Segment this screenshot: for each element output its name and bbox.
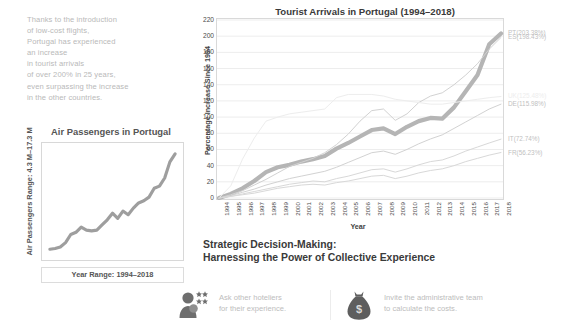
series-label-fr: FR(56.23%) [508,149,542,156]
x-tick-2013: 2013 [446,202,453,216]
series-line-uk [219,94,501,198]
x-tick-1999: 1999 [281,202,288,216]
series-label-es: ES(198.43%) [508,33,546,40]
x-tick-1995: 1995 [234,202,241,216]
callout-ask-hoteliers-line-2: for their experience. [219,303,286,314]
svg-text:$: $ [356,303,362,315]
strategic-heading-line-1: Strategic Decision-Making: [203,238,543,251]
y-tick-200: 200 [192,32,214,39]
x-tick-2005: 2005 [352,202,359,216]
x-tick-2007: 2007 [375,202,382,216]
y-tick-140: 140 [192,81,214,88]
y-axis-ticks: 020406080100120140160180200220 [188,18,214,200]
y-tick-40: 40 [192,162,214,169]
slide-root: Thanks to the introduction of low-cost f… [0,0,564,336]
y-tick-80: 80 [192,129,214,136]
narrative-line-7: even surpassing the increase [27,81,177,92]
callout-invite-admin-line-2: to calculate the costs. [384,303,483,314]
x-tick-2011: 2011 [422,202,429,215]
callout-invite-admin: $ Invite the administrative team to calc… [343,288,483,322]
series-label-it: IT(72.74%) [508,135,540,142]
x-tick-2009: 2009 [399,202,406,216]
x-tick-2010: 2010 [411,202,418,216]
callout-invite-admin-line-1: Invite the administrative team [384,292,483,303]
x-tick-2014: 2014 [458,202,465,216]
series-label-de: DE(115.98%) [508,100,546,107]
air-passengers-chart: Air Passengers in Portugal Air Passenger… [14,126,186,286]
x-axis-ticks: 1994199519961997199819992000200120022003… [216,202,504,222]
callouts-row: Ask other hoteliers for their experience… [178,288,564,334]
air-passengers-chart-title: Air Passengers in Portugal [36,126,186,137]
narrative-line-2: of low-cost flights, [27,25,177,36]
air-passengers-y-axis-label: Air Passengers Range: 4.3 M–17.3 M [25,130,34,256]
x-tick-2006: 2006 [364,202,371,216]
x-tick-2012: 2012 [434,202,441,216]
tourist-arrivals-plot-area [216,18,504,200]
y-tick-60: 60 [192,145,214,152]
x-tick-2002: 2002 [317,202,324,216]
narrative-line-6: of over 200% in 25 years, [27,69,177,80]
callout-ask-hoteliers-text: Ask other hoteliers for their experience… [219,288,286,314]
x-tick-2016: 2016 [481,202,488,216]
tourist-arrivals-x-axis-label: Year [208,222,508,231]
x-tick-2004: 2004 [340,202,347,216]
series-label-uk: UK(125.48%) [508,92,546,99]
callout-ask-hoteliers: Ask other hoteliers for their experience… [178,288,286,322]
x-tick-1994: 1994 [223,202,230,216]
series-line-de [219,104,501,198]
x-tick-1998: 1998 [270,202,277,216]
x-tick-1997: 1997 [258,202,265,216]
tourist-arrivals-chart-title: Tourist Arrivals in Portugal (1994–2018) [200,6,530,17]
callout-ask-hoteliers-line-1: Ask other hoteliers [219,292,286,303]
x-tick-2018: 2018 [505,202,512,216]
people-stars-icon [178,288,210,322]
x-tick-2001: 2001 [305,202,312,216]
callout-invite-admin-text: Invite the administrative team to calcul… [384,288,483,314]
narrative-line-1: Thanks to the introduction [27,14,177,25]
air-passengers-plot-area [41,142,184,261]
y-tick-20: 20 [192,178,214,185]
strategic-heading-line-2: Harnessing the Power of Collective Exper… [203,251,543,264]
strategic-heading: Strategic Decision-Making: Harnessing th… [203,238,543,265]
narrative-line-8: in the other countries. [27,92,177,103]
narrative-line-5: in tourist arrivals [27,58,177,69]
air-passengers-line [42,143,183,260]
callouts-divider [330,290,331,320]
y-tick-160: 160 [192,65,214,72]
series-line-it [219,139,501,198]
plot-border [217,19,504,200]
narrative-line-3: Portugal has experienced [27,36,177,47]
y-tick-220: 220 [192,16,214,23]
tourist-arrivals-series-lines [216,18,504,200]
y-tick-100: 100 [192,113,214,120]
x-tick-2000: 2000 [293,202,300,216]
tourist-arrivals-chart: Tourist Arrivals in Portugal (1994–2018)… [188,4,564,236]
x-tick-1996: 1996 [246,202,253,216]
gridlines [216,20,504,198]
x-tick-2008: 2008 [387,202,394,216]
y-tick-0: 0 [192,194,214,201]
x-tick-2003: 2003 [328,202,335,216]
y-tick-120: 120 [192,97,214,104]
money-bag-icon: $ [343,288,375,322]
x-tick-2017: 2017 [493,202,500,216]
narrative-line-4: an increase [27,47,177,58]
air-passengers-x-axis-label: Year Range: 1994–2018 [41,270,184,279]
y-tick-180: 180 [192,48,214,55]
narrative-text: Thanks to the introduction of low-cost f… [27,14,177,103]
x-tick-2015: 2015 [469,202,476,216]
